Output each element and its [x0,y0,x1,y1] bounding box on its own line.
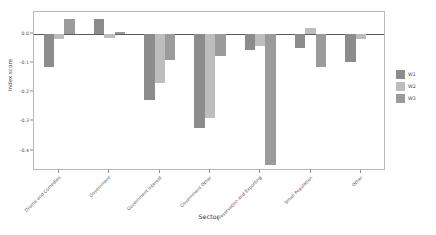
bar [356,34,366,39]
x-tick-mark [108,170,109,173]
x-tick-mark [58,170,59,173]
bar [44,34,54,67]
legend-item: W2 [396,80,434,92]
x-tick-label: Small Population [283,175,313,205]
y-axis-title: Index score [7,45,13,105]
x-tick-label: Other [351,175,364,188]
bar [165,34,175,60]
legend-swatch [396,82,405,91]
plot-area [33,11,385,170]
bar [94,19,104,34]
bar [104,34,114,38]
bar [295,34,305,49]
x-tick-label: Drama and Comedies [24,175,62,213]
bar [54,34,64,39]
x-tick-mark [360,170,361,173]
bar [345,34,355,62]
legend-item: W3 [396,92,434,104]
bar-chart-figure: 0.0-0.1-0.2-0.3-0.4 Index score Drama an… [0,0,436,235]
bar [265,34,275,165]
bar [255,34,265,46]
legend-label: W3 [408,96,416,101]
x-tick-label: Government Interest [126,175,163,212]
x-tick-label: Government [89,175,112,198]
y-tick-label: -0.2 [20,89,29,94]
bar [316,34,326,68]
y-tick-label: 0.0 [21,30,29,35]
x-axis: Drama and ComediesGovernmentGovernment I… [33,170,385,210]
x-tick-mark [209,170,210,173]
legend-label: W2 [408,84,416,89]
x-tick-mark [310,170,311,173]
bar [144,34,154,100]
y-tick-label: -0.1 [20,60,29,65]
bar [245,34,255,50]
bar [64,19,74,34]
y-tick-label: -0.4 [20,147,29,152]
bar [205,34,215,119]
x-tick-mark [159,170,160,173]
bar [215,34,225,56]
bar [305,28,315,34]
x-tick-mark [259,170,260,173]
legend-label: W1 [408,72,416,77]
bar [115,32,125,34]
bar [155,34,165,84]
x-axis-title: Sector [33,213,385,220]
legend-swatch [396,94,405,103]
bars-layer [34,12,384,169]
legend-swatch [396,70,405,79]
legend: W1W2W3 [396,68,434,104]
legend-item: W1 [396,68,434,80]
x-tick-label: Government Other [179,175,212,208]
y-tick-label: -0.3 [20,118,29,123]
y-axis: 0.0-0.1-0.2-0.3-0.4 [0,11,33,170]
bar [194,34,204,128]
